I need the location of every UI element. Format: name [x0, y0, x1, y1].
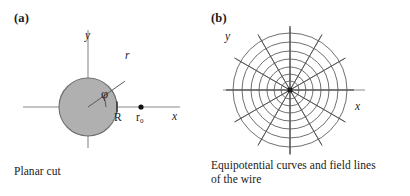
y-axis-label-b: y	[225, 31, 230, 43]
panel-a: (a) y x r φ R r₀ Planar cut	[0, 0, 205, 196]
radius-vector-label: r	[125, 50, 129, 62]
wire-radius-label: R	[114, 112, 122, 124]
x-axis-label-a: x	[172, 111, 177, 123]
field-point-label: r₀	[136, 112, 144, 124]
angle-phi-label: φ	[101, 88, 108, 101]
wire-center-dot	[288, 88, 293, 93]
x-axis-label-b: x	[355, 101, 360, 113]
y-axis-label-a: y	[85, 30, 90, 42]
panel-a-caption: Planar cut	[14, 164, 199, 178]
field-point-r0-dot	[138, 104, 143, 109]
panel-b: (b) y x Equipotential curves and field l…	[205, 0, 410, 196]
panel-b-caption: Equipotential curves and field lines of …	[211, 158, 410, 186]
